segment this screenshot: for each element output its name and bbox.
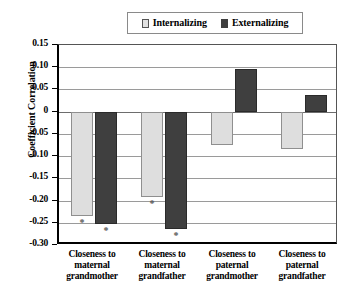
y-axis-tick-label: 0.10	[0, 61, 48, 71]
y-axis-tick	[52, 244, 57, 245]
x-axis-category-line: grandfather	[268, 271, 336, 282]
bar-internalizing	[211, 112, 233, 145]
bar-internalizing	[141, 112, 163, 198]
x-axis-category-line: Closeness to	[198, 249, 266, 260]
x-axis-category-line: maternal	[128, 260, 196, 271]
y-axis-tick-label: -0.15	[0, 172, 48, 182]
bar-externalizing	[235, 69, 257, 112]
y-axis-tick-label: 0.05	[0, 83, 48, 93]
x-axis-category-line: grandmother	[58, 271, 126, 282]
x-axis-category-line: Closeness to	[58, 249, 126, 260]
x-axis-category-line: grandmother	[198, 271, 266, 282]
significance-asterisk: *	[171, 231, 181, 241]
legend-item-internalizing: Internalizing	[142, 18, 207, 28]
x-axis-category-line: Closeness to	[268, 249, 336, 260]
significance-asterisk: *	[77, 218, 87, 228]
x-axis-category-label: Closeness topaternalgrandfather	[267, 249, 337, 299]
x-axis-category-label: Closeness tomaternalgrandfather	[127, 249, 197, 299]
bar-series-container: ****	[59, 45, 336, 242]
x-axis-category-label: Closeness tomaternalgrandmother	[57, 249, 127, 299]
y-axis-tick-label: 0	[0, 106, 48, 116]
x-axis-category-line: paternal	[268, 260, 336, 271]
x-axis-category-line: Closeness to	[128, 249, 196, 260]
bar-internalizing	[71, 112, 93, 216]
y-axis-tick-label: -0.05	[0, 128, 48, 138]
x-axis-category-line: grandfather	[128, 271, 196, 282]
bar-externalizing	[95, 112, 117, 224]
chart-legend: Internalizing Externalizing	[127, 12, 303, 34]
y-axis-tick-label: -0.30	[0, 239, 48, 249]
bar-chart: Internalizing Externalizing Coefficient …	[0, 0, 349, 302]
legend-label-externalizing: Externalizing	[232, 18, 288, 28]
legend-swatch-icon-internalizing	[142, 19, 149, 28]
significance-asterisk: *	[147, 199, 157, 209]
legend-swatch-icon-externalizing	[221, 19, 228, 28]
y-axis-tick-label: -0.25	[0, 217, 48, 227]
legend-label-internalizing: Internalizing	[153, 18, 207, 28]
y-axis-tick-label: 0.15	[0, 39, 48, 49]
y-axis-tick-label: -0.20	[0, 195, 48, 205]
plot-area: ****	[57, 44, 337, 244]
bar-externalizing	[305, 95, 327, 111]
bar-externalizing	[165, 112, 187, 230]
legend-item-externalizing: Externalizing	[221, 18, 288, 28]
x-axis-categories: Closeness tomaternalgrandmotherCloseness…	[57, 249, 337, 299]
x-axis-category-line: paternal	[198, 260, 266, 271]
x-axis-category-label: Closeness topaternalgrandmother	[197, 249, 267, 299]
significance-asterisk: *	[101, 226, 111, 236]
bar-internalizing	[281, 112, 303, 150]
y-axis-tick-label: -0.10	[0, 150, 48, 160]
x-axis-category-line: maternal	[58, 260, 126, 271]
